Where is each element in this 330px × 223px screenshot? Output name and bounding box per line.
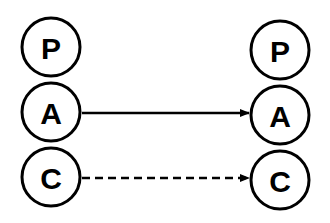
right-node-p: P xyxy=(251,21,309,79)
svg-text:C: C xyxy=(269,165,291,198)
svg-text:P: P xyxy=(270,35,290,68)
svg-text:P: P xyxy=(41,32,61,65)
left-node-c: C xyxy=(22,148,80,206)
diagram-canvas: P A C P A C xyxy=(0,0,330,223)
svg-text:A: A xyxy=(269,100,291,133)
svg-text:A: A xyxy=(40,97,62,130)
right-node-a: A xyxy=(251,86,309,144)
svg-text:C: C xyxy=(40,162,62,195)
left-node-a: A xyxy=(22,83,80,141)
left-node-p: P xyxy=(22,18,80,76)
right-node-c: C xyxy=(251,151,309,209)
